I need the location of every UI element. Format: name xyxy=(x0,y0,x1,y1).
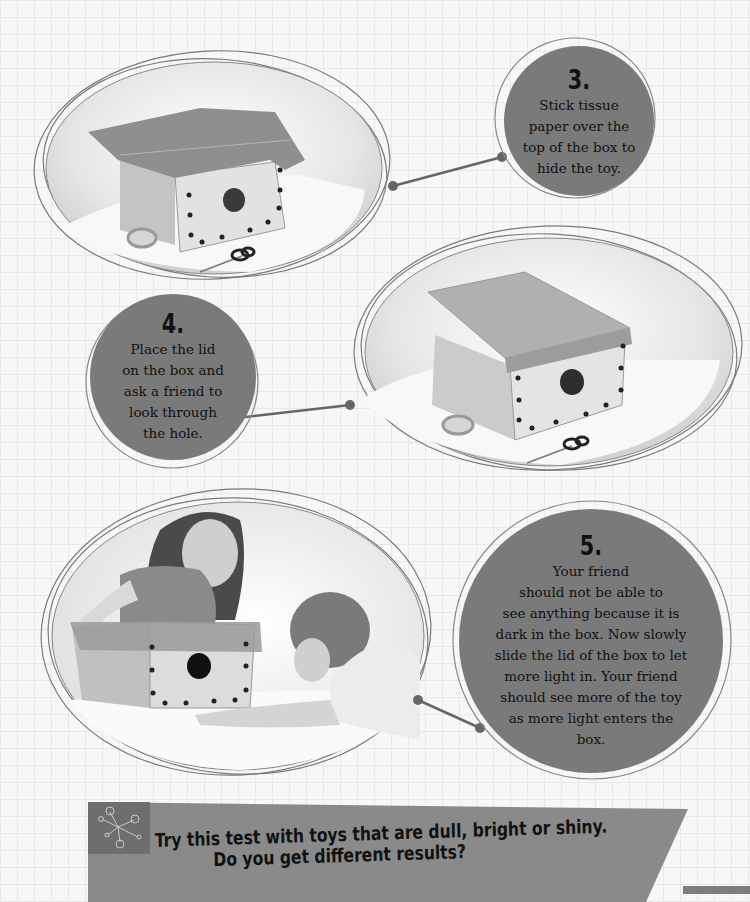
step-3-number: 3. xyxy=(568,67,590,93)
connector-step-5 xyxy=(418,700,480,728)
photo-step-4 xyxy=(350,219,746,479)
step-5-callout: 5. Your friend should not be able to see… xyxy=(459,509,723,773)
photo-step-5 xyxy=(34,479,438,785)
connector-step-3 xyxy=(393,157,502,186)
molecule-network-icon xyxy=(88,802,150,854)
step-3-text: Stick tissue paper over the top of the b… xyxy=(523,95,636,179)
photo-step-3 xyxy=(28,42,395,289)
step-4-number: 4. xyxy=(162,311,184,337)
page-corner-tab xyxy=(683,886,750,894)
step-4-text: Place the lid on the box and ask a frien… xyxy=(122,339,224,444)
banner-icon-box xyxy=(88,802,150,854)
step-3-callout: 3. Stick tissue paper over the top of th… xyxy=(504,46,654,196)
step-4-callout: 4. Place the lid on the box and ask a fr… xyxy=(90,294,256,460)
step-5-text: Your friend should not be able to see an… xyxy=(495,561,688,750)
step-5-number: 5. xyxy=(580,533,602,559)
